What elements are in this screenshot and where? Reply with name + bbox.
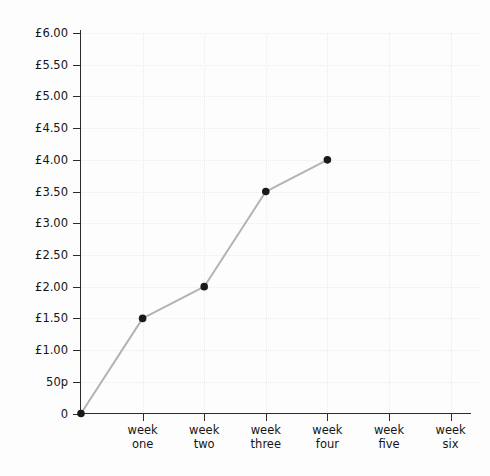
y-tick-label: £4.00 — [12, 153, 68, 167]
y-tick-mark — [73, 192, 80, 193]
y-tick-mark — [73, 255, 80, 256]
gridline-horizontal — [81, 160, 479, 161]
y-tick-label: £4.50 — [12, 121, 68, 135]
x-tick-mark — [204, 414, 205, 421]
y-tick-mark — [73, 96, 80, 97]
y-tick-label: £2.00 — [12, 280, 68, 294]
x-tick-mark — [451, 414, 452, 421]
gridline-horizontal — [81, 382, 479, 383]
plot-area — [81, 33, 479, 414]
x-axis-line — [81, 413, 471, 414]
gridline-horizontal — [81, 287, 479, 288]
gridline-horizontal — [81, 96, 479, 97]
gridline-vertical — [327, 33, 328, 414]
y-tick-label: £3.00 — [12, 216, 68, 230]
y-tick-mark — [73, 350, 80, 351]
y-tick-label: £2.50 — [12, 248, 68, 262]
gridline-horizontal — [81, 33, 479, 34]
y-tick-mark — [73, 160, 80, 161]
gridline-horizontal — [81, 128, 479, 129]
gridline-horizontal — [81, 318, 479, 319]
y-tick-mark — [73, 287, 80, 288]
x-tick-mark — [327, 414, 328, 421]
y-tick-label: £6.00 — [12, 26, 68, 40]
x-tick-label-line: week — [413, 424, 489, 438]
y-tick-mark — [73, 65, 80, 66]
y-tick-mark — [73, 318, 80, 319]
y-tick-label: £5.00 — [12, 89, 68, 103]
gridline-horizontal — [81, 192, 479, 193]
y-tick-mark — [73, 414, 80, 415]
y-tick-mark — [73, 382, 80, 383]
gridline-horizontal — [81, 65, 479, 66]
x-tick-label-line: six — [413, 438, 489, 452]
y-tick-label: £5.50 — [12, 58, 68, 72]
gridline-vertical — [266, 33, 267, 414]
gridline-horizontal — [81, 255, 479, 256]
line-chart: Roy's savings 050p£1.00£1.50£2.00£2.50£3… — [0, 0, 490, 476]
y-tick-mark — [73, 223, 80, 224]
y-tick-label: £3.50 — [12, 185, 68, 199]
y-tick-label: £1.00 — [12, 343, 68, 357]
x-tick-mark — [266, 414, 267, 421]
x-tick-mark — [143, 414, 144, 421]
x-tick-label: weeksix — [413, 424, 489, 451]
x-tick-mark — [389, 414, 390, 421]
y-tick-mark — [73, 128, 80, 129]
gridline-vertical — [204, 33, 205, 414]
y-tick-label: £1.50 — [12, 311, 68, 325]
gridline-vertical — [143, 33, 144, 414]
gridline-horizontal — [81, 350, 479, 351]
gridline-vertical — [451, 33, 452, 414]
gridline-vertical — [389, 33, 390, 414]
y-tick-mark — [73, 33, 80, 34]
gridline-horizontal — [81, 223, 479, 224]
y-tick-label: 0 — [12, 407, 68, 421]
y-axis-line — [80, 30, 81, 416]
y-tick-label: 50p — [12, 375, 68, 389]
